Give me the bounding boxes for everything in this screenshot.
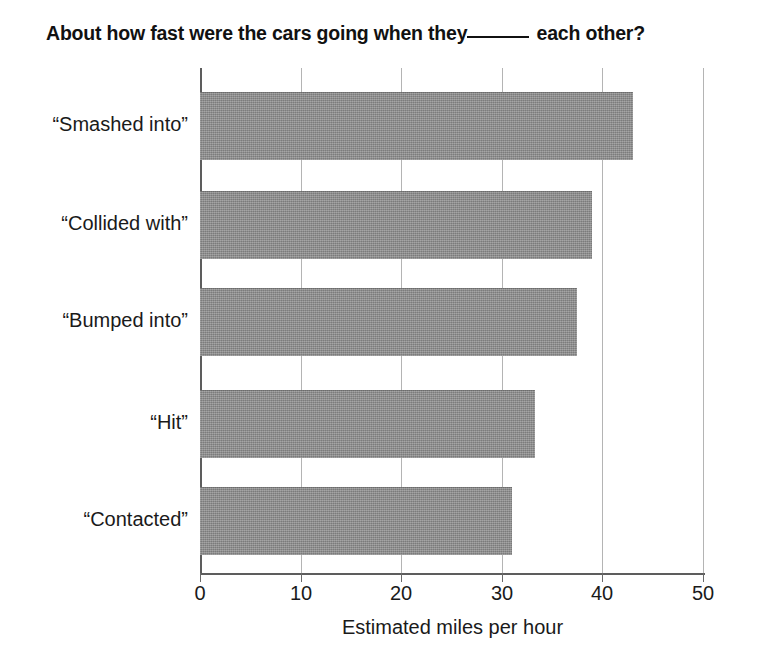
x-tick-20 [401, 573, 402, 582]
x-tick-0 [200, 573, 201, 582]
bar [200, 288, 577, 356]
bar [200, 487, 512, 555]
x-axis-title: Estimated miles per hour [200, 616, 705, 639]
x-tick-50 [703, 573, 704, 582]
x-tick-label-50: 50 [692, 582, 714, 605]
category-label: “Bumped into” [10, 309, 188, 332]
category-label: “Contacted” [10, 508, 188, 531]
chart-title-after-blank: each other? [531, 22, 645, 44]
category-label-list: “Smashed into”“Collided with”“Bumped int… [4, 0, 188, 665]
category-label: “Collided with” [10, 212, 188, 235]
x-tick-30 [502, 573, 503, 582]
x-tick-label-0: 0 [194, 582, 205, 605]
category-label: “Hit” [10, 411, 188, 434]
x-tick-label-30: 30 [491, 582, 513, 605]
x-tick-label-10: 10 [290, 582, 312, 605]
fill-in-blank-underline [467, 36, 529, 38]
gridline-50 [703, 68, 704, 573]
bar [200, 191, 592, 259]
x-tick-label-40: 40 [591, 582, 613, 605]
bar [200, 390, 535, 458]
x-tick-40 [602, 573, 603, 582]
x-tick-10 [301, 573, 302, 582]
category-axis-line [200, 573, 705, 575]
x-tick-label-20: 20 [390, 582, 412, 605]
plot-area [200, 68, 703, 573]
bar [200, 92, 633, 160]
category-label: “Smashed into” [10, 113, 188, 136]
